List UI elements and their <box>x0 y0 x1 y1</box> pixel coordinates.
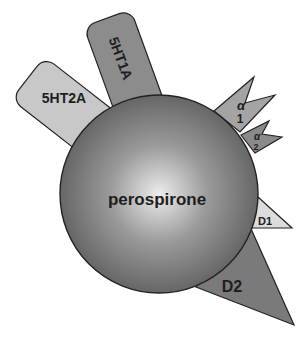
alpha2-subscript: 2 <box>253 142 258 152</box>
alpha1-symbol: α <box>237 98 246 113</box>
alpha2-symbol: α <box>254 131 261 142</box>
d2-label: D2 <box>222 278 243 295</box>
d1-label: D1 <box>258 215 272 227</box>
perospirone-sphere: perospirone <box>60 95 258 293</box>
perospirone-receptor-diagram: D2 D1 5HT2A 5HT1A α 1 α 2 perospirone <box>0 0 308 341</box>
alpha1-subscript: 1 <box>237 112 244 126</box>
5ht2a-label: 5HT2A <box>42 90 86 106</box>
center-label: perospirone <box>108 190 206 209</box>
